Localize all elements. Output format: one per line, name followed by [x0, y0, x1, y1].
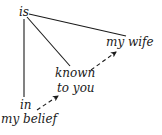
node-my-wife: my wife: [106, 36, 154, 49]
edge-is-to-my-wife: [29, 14, 126, 36]
dashed-arrow-belief-to-you: [37, 96, 58, 110]
node-is: is: [19, 6, 29, 19]
node-my-belief: my belief: [1, 113, 57, 126]
node-in: in: [20, 99, 32, 112]
node-known: known: [55, 67, 95, 80]
edge-is-to-known: [27, 17, 70, 66]
dependency-diagram: is my wife known to you in my belief: [0, 0, 162, 135]
node-to-you: to you: [57, 82, 95, 95]
